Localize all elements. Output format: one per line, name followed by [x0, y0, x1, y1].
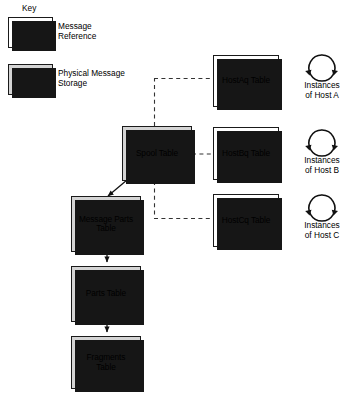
key-title: Key: [22, 3, 36, 13]
cycle-icon-slot-b: [294, 127, 350, 154]
instance-label-host-c: Instances of Host C: [294, 220, 350, 240]
node-hostbq-table-label: HostBq Table: [220, 149, 272, 158]
instance-group-host-b: Instances of Host B: [294, 127, 350, 175]
key-swatch-message-reference: [8, 17, 53, 48]
key-label-message-reference: Message Reference: [58, 21, 96, 41]
node-hostcq-table-label: HostCq Table: [220, 216, 272, 225]
node-message-parts-table[interactable]: Message Parts Table: [71, 196, 141, 252]
node-spool-table[interactable]: Spool Table: [122, 126, 192, 181]
instance-label-host-b: Instances of Host B: [294, 155, 350, 175]
node-spool-table-label: Spool Table: [134, 149, 180, 158]
node-hostaq-table-label: HostAq Table: [220, 76, 272, 85]
instance-label-host-a: Instances of Host A: [294, 80, 350, 100]
diagram-canvas: Key Message Reference Physical Message S…: [0, 0, 350, 396]
instance-group-host-c: Instances of Host C: [294, 192, 350, 240]
node-parts-table-label: Parts Table: [84, 289, 128, 298]
node-hostbq-table[interactable]: HostBq Table: [213, 127, 279, 180]
key-swatch-physical-message-storage: [8, 64, 53, 95]
instance-group-host-a: Instances of Host A: [294, 52, 350, 100]
arrow-spool-to-message-parts: [108, 180, 127, 196]
node-hostcq-table[interactable]: HostCq Table: [213, 194, 279, 247]
node-fragments-table[interactable]: Fragments Table: [71, 336, 141, 389]
cycle-icon-slot-a: [294, 52, 350, 79]
cycle-icon-slot-c: [294, 192, 350, 219]
key-label-physical-message-storage: Physical Message Storage: [58, 68, 125, 88]
node-hostaq-table[interactable]: HostAq Table: [213, 55, 279, 107]
node-message-parts-table-label: Message Parts Table: [77, 215, 135, 234]
node-fragments-table-label: Fragments Table: [85, 353, 128, 372]
node-parts-table[interactable]: Parts Table: [71, 266, 141, 322]
